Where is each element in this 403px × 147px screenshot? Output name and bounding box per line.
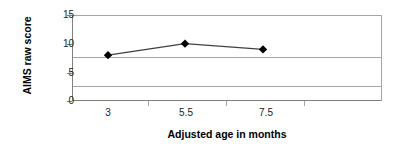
line-chart: AIMS raw score 15 10 5 0 3 5.5 7.5 Adjus… [0,0,403,147]
data-series-layer [0,0,403,147]
data-point-marker [104,51,112,59]
series-markers [104,39,267,59]
data-point-marker [181,39,189,47]
data-point-marker [259,45,267,53]
